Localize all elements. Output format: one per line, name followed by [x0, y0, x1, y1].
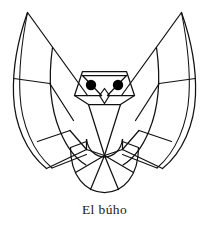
- body-right-edge: [105, 105, 121, 156]
- body-left-edge: [89, 105, 105, 156]
- illustration-page: El búho: [0, 0, 209, 225]
- left-eye: [86, 80, 96, 90]
- tail-rib-1: [76, 156, 105, 173]
- tail-rib-2: [91, 156, 105, 190]
- tail-fan: [71, 142, 139, 193]
- right-wing-band-lower: [139, 131, 172, 142]
- left-wing-lower-edge: [47, 150, 87, 169]
- left-wing-band-lower: [38, 131, 71, 142]
- right-wing-outer-edge: [163, 13, 196, 169]
- right-wing-outer-inner-line: [157, 13, 189, 169]
- left-wing-outer-inner-line: [20, 13, 52, 169]
- owl-illustration: [0, 0, 209, 200]
- owl-body: [87, 105, 123, 158]
- page-caption: El búho: [0, 202, 209, 218]
- left-wing-inner-arc: [50, 48, 86, 166]
- owl-head: [75, 72, 135, 105]
- left-wing-band-diagonal: [50, 84, 74, 121]
- right-wing-lower-edge: [123, 150, 163, 169]
- right-wing-inner-arc: [123, 48, 159, 166]
- left-wing-outer-edge: [13, 13, 46, 169]
- tail-rib-3: [105, 156, 119, 190]
- right-eye: [113, 80, 123, 90]
- tail-rib-4: [105, 156, 134, 173]
- right-wing-band-diagonal: [136, 84, 160, 121]
